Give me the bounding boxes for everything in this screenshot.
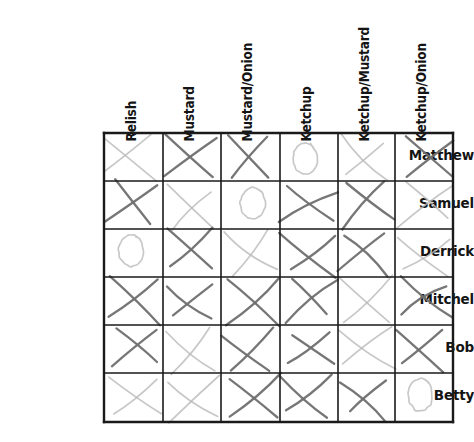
cell-samuel-ketchup-onion[interactable] [395, 181, 453, 229]
cell-matthew-ketchup-mustard[interactable] [338, 133, 395, 181]
cell-betty-mustard-onion[interactable] [221, 373, 280, 422]
cell-bob-mustard-onion[interactable] [221, 325, 280, 373]
cell-betty-ketchup-onion[interactable] [395, 373, 453, 422]
cell-derrick-relish[interactable] [104, 229, 163, 277]
cell-samuel-relish[interactable] [104, 181, 163, 229]
cell-samuel-mustard-onion[interactable] [221, 181, 280, 229]
cell-mitchel-ketchup-onion[interactable] [395, 277, 453, 325]
cell-matthew-relish[interactable] [104, 133, 163, 181]
cell-samuel-ketchup-mustard[interactable] [338, 181, 395, 229]
cell-mitchel-mustard-onion[interactable] [221, 277, 280, 325]
cell-matthew-mustard[interactable] [163, 133, 221, 181]
cell-bob-ketchup-onion[interactable] [395, 325, 453, 373]
cell-betty-mustard[interactable] [163, 373, 221, 422]
cell-bob-relish[interactable] [104, 325, 163, 373]
cell-derrick-ketchup[interactable] [280, 229, 338, 277]
cell-matthew-ketchup-onion[interactable] [395, 133, 453, 181]
cell-matthew-ketchup[interactable] [280, 133, 338, 181]
cell-matthew-mustard-onion[interactable] [221, 133, 280, 181]
cell-derrick-mustard[interactable] [163, 229, 221, 277]
column-header-ketchup-mustard: Ketchup/Mustard [358, 27, 372, 142]
cell-samuel-mustard[interactable] [163, 181, 221, 229]
cell-bob-mustard[interactable] [163, 325, 221, 373]
column-header-ketchup-onion: Ketchup/Onion [415, 43, 429, 141]
cell-mitchel-mustard[interactable] [163, 277, 221, 325]
column-header-mustard-onion: Mustard/Onion [241, 43, 255, 142]
cell-samuel-ketchup[interactable] [280, 181, 338, 229]
cell-bob-ketchup[interactable] [280, 325, 338, 373]
cell-betty-ketchup-mustard[interactable] [338, 373, 395, 422]
cell-bob-ketchup-mustard[interactable] [338, 325, 395, 373]
cell-mitchel-relish[interactable] [104, 277, 163, 325]
cell-betty-relish[interactable] [104, 373, 163, 422]
preference-matrix-figure: Relish Mustard Mustard/Onion Ketchup Ket… [0, 0, 474, 442]
cell-derrick-ketchup-onion[interactable] [395, 229, 453, 277]
cell-derrick-mustard-onion[interactable] [221, 229, 280, 277]
cell-derrick-ketchup-mustard[interactable] [338, 229, 395, 277]
cell-mitchel-ketchup-mustard[interactable] [338, 277, 395, 325]
cell-betty-ketchup[interactable] [280, 373, 338, 422]
cell-mitchel-ketchup[interactable] [280, 277, 338, 325]
